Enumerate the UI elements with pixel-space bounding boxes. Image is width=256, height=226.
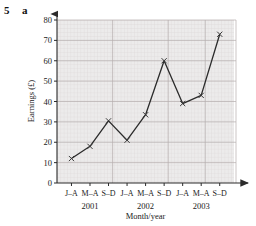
x-tick-label: M–A (193, 189, 210, 198)
x-tick-label: S–D (213, 189, 227, 198)
y-tick-label: 0 (48, 178, 52, 188)
x-tick-label: J–A (176, 189, 189, 198)
y-axis-ticks: 01020304050607080 (44, 15, 58, 188)
x-axis-label: Month/year (126, 211, 166, 221)
line-chart: 01020304050607080 J–AM–AS–DJ–AM–AS–DJ–AM… (0, 0, 256, 226)
y-tick-label: 70 (44, 35, 53, 45)
y-tick-label: 80 (44, 15, 53, 25)
x-tick-label: J–A (121, 189, 134, 198)
y-axis-label: Earnings (£) (26, 80, 36, 122)
y-tick-label: 10 (44, 158, 53, 168)
x-axis-year-label: 2001 (81, 201, 98, 211)
x-tick-label: S–D (101, 189, 115, 198)
x-tick-label: M–A (82, 189, 99, 198)
y-tick-label: 60 (44, 56, 53, 66)
y-tick-label: 30 (44, 117, 53, 127)
x-tick-label: J–A (65, 189, 78, 198)
y-tick-label: 50 (44, 76, 53, 86)
x-axis-ticks: J–AM–AS–DJ–AM–AS–DJ–AM–AS–D (65, 183, 227, 198)
x-axis-year-label: 2002 (137, 201, 154, 211)
x-axis-group-labels: 200120022003 (81, 201, 209, 211)
y-tick-label: 20 (44, 137, 53, 147)
x-axis-year-label: 2003 (193, 201, 210, 211)
y-tick-label: 40 (44, 97, 53, 107)
x-tick-label: M–A (137, 189, 154, 198)
x-tick-label: S–D (157, 189, 171, 198)
